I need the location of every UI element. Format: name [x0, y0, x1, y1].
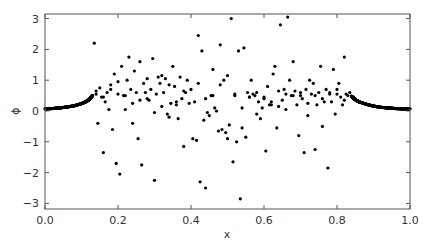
data-point [224, 131, 227, 134]
data-point [301, 97, 304, 100]
data-point [208, 114, 211, 117]
data-point [113, 72, 116, 75]
data-point [206, 111, 209, 114]
data-point [98, 86, 101, 89]
data-point [304, 88, 307, 91]
data-point [332, 68, 335, 71]
data-point [303, 151, 306, 154]
data-point [153, 111, 156, 114]
data-point [186, 79, 189, 82]
data-point [144, 91, 147, 94]
data-point [140, 163, 143, 166]
data-point [155, 93, 158, 96]
data-point [164, 77, 167, 80]
data-point [343, 56, 346, 59]
data-point [173, 85, 176, 88]
data-point [180, 97, 183, 100]
data-point [120, 65, 123, 68]
data-point [299, 91, 302, 94]
data-point [337, 82, 340, 85]
data-point [146, 97, 149, 100]
y-tick-label: 3 [32, 13, 39, 26]
data-point [217, 129, 220, 132]
data-point [308, 79, 311, 82]
data-point [259, 117, 262, 120]
data-point [102, 151, 105, 154]
data-point [328, 93, 331, 96]
y-axis-label: ϕ [9, 107, 22, 114]
data-point [160, 74, 163, 77]
data-point [195, 139, 198, 142]
data-point [314, 94, 317, 97]
y-tick-label: 1 [32, 74, 39, 87]
data-point [179, 76, 182, 79]
data-point [326, 166, 329, 169]
data-point [118, 173, 121, 176]
data-point [149, 88, 152, 91]
data-point [261, 106, 264, 109]
data-point [115, 162, 118, 165]
data-point [135, 91, 138, 94]
y-tick-label: −1 [23, 136, 39, 149]
data-point [204, 186, 207, 189]
data-point [231, 160, 234, 163]
data-point [138, 60, 141, 63]
data-point [193, 100, 196, 103]
data-point [321, 97, 324, 100]
data-point [171, 65, 174, 68]
data-point [215, 109, 218, 112]
data-point [272, 72, 275, 75]
data-point [151, 57, 154, 60]
data-point [226, 74, 229, 77]
data-point [299, 94, 302, 97]
data-point [283, 88, 286, 91]
data-point [312, 82, 315, 85]
data-point [321, 125, 324, 128]
data-point [131, 102, 134, 105]
data-point [175, 100, 178, 103]
y-tick-label: −2 [23, 167, 39, 180]
data-point [284, 108, 287, 111]
x-tick-label: 0.4 [182, 214, 200, 227]
data-point [246, 91, 249, 94]
data-point [109, 83, 112, 86]
data-point [169, 102, 172, 105]
x-tick-label: 1.0 [401, 214, 419, 227]
data-point [220, 128, 223, 131]
data-point [314, 148, 317, 151]
x-tick-label: 0.6 [255, 214, 273, 227]
data-point [277, 89, 280, 92]
data-point [306, 102, 309, 105]
data-point [211, 94, 214, 97]
data-point [264, 149, 267, 152]
data-point [273, 65, 276, 68]
data-point [281, 99, 284, 102]
data-point [106, 91, 109, 94]
data-point [270, 103, 273, 106]
data-point [188, 102, 191, 105]
data-point [237, 49, 240, 52]
data-point [253, 94, 256, 97]
data-point [335, 88, 338, 91]
data-point [277, 105, 280, 108]
data-point [226, 137, 229, 140]
data-point [199, 180, 202, 183]
data-point [211, 68, 214, 71]
data-point [330, 100, 333, 103]
data-point [319, 65, 322, 68]
data-point [116, 80, 119, 83]
data-point [104, 100, 107, 103]
data-point [175, 103, 178, 106]
data-point [270, 100, 273, 103]
data-point [343, 99, 346, 102]
data-point [177, 117, 180, 120]
data-point [157, 76, 160, 79]
data-point [197, 82, 200, 85]
data-point [200, 49, 203, 52]
data-point [137, 137, 140, 140]
data-point [126, 79, 129, 82]
data-point [292, 60, 295, 63]
data-point [233, 93, 236, 96]
y-tick-label: 0 [32, 105, 39, 118]
data-point [162, 91, 165, 94]
